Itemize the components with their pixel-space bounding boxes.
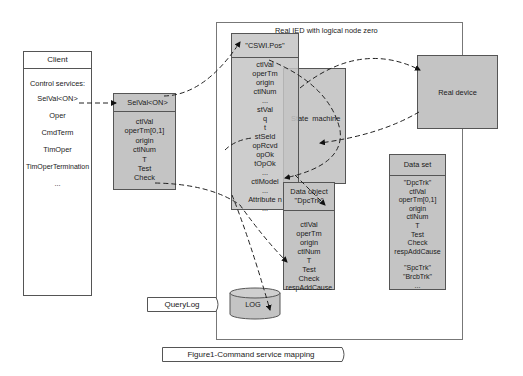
- attr-ctlval: ctlVal: [114, 117, 175, 126]
- attr-t: t: [232, 123, 298, 132]
- member-opertm: operTm[0,1]: [390, 196, 445, 205]
- attr-oprcvd: opRcvd: [232, 141, 298, 150]
- member-spacer: [390, 256, 445, 264]
- attr-ellipsis: ...: [232, 168, 298, 177]
- data-object-attributes: ctlVal operTm origin ctlNum T Test Check…: [284, 220, 334, 292]
- attr-ctlval: ctlVal: [232, 60, 298, 69]
- real-device-label: Real device: [418, 56, 497, 130]
- attr-test: Test: [114, 164, 175, 173]
- data-set-box: Data set "DpcTrk" ctlVal operTm[0,1] ori…: [389, 154, 446, 290]
- attr-ellipsis: ...: [232, 96, 298, 105]
- member-brcbtrk: "BrcbTrk": [390, 273, 445, 282]
- data-set-members: "DpcTrk" ctlVal operTm[0,1] origin ctlNu…: [390, 179, 445, 290]
- member-spctrk: "SpcTrk": [390, 264, 445, 273]
- member-respaddcause: respAddCause: [390, 248, 445, 257]
- client-box: Client Control services: SelVal<ON> Oper…: [23, 51, 92, 296]
- selval-box: SelVal<ON> ctlVal operTm[0,1] origin ctl…: [113, 93, 176, 190]
- service-oper: Oper: [24, 107, 91, 124]
- data-object-title: Data object "DpcTrk": [284, 183, 334, 211]
- attr-t: T: [284, 256, 334, 265]
- attr-check: Check: [114, 173, 175, 182]
- querylog-label-box: QueryLog: [147, 297, 221, 312]
- service-timopertermination: TimOperTermination: [24, 158, 91, 175]
- attr-stseld: stSeld: [232, 132, 298, 141]
- attr-opertm: operTm: [284, 229, 334, 238]
- querylog-label: QueryLog: [147, 297, 217, 312]
- client-title: Client: [24, 52, 91, 69]
- attr-origin: origin: [114, 136, 175, 145]
- attr-topok: tOpOk: [232, 159, 298, 168]
- selval-title: SelVal<ON>: [114, 94, 175, 112]
- attr-q: q: [232, 114, 298, 123]
- service-timoper: TimOper: [24, 141, 91, 158]
- member-origin: origin: [390, 205, 445, 214]
- service-more: ...: [24, 175, 91, 192]
- attr-ctlnum: ctlNum: [232, 87, 298, 96]
- log-label: LOG: [229, 300, 277, 309]
- attr-opertm: operTm[0,1]: [114, 126, 175, 135]
- attr-opertm: operTm: [232, 69, 298, 78]
- log-cylinder: LOG: [229, 287, 281, 321]
- member-check: Check: [390, 239, 445, 248]
- real-device-box: Real device: [417, 55, 498, 129]
- attr-ctlnum: ctlNum: [284, 247, 334, 256]
- attr-stval: stVal: [232, 105, 298, 114]
- attr-opok: opOk: [232, 150, 298, 159]
- member-ctlval: ctlVal: [390, 188, 445, 197]
- data-object-title-line2: "DpcTrk": [284, 196, 334, 205]
- attr-origin: origin: [232, 78, 298, 87]
- attr-ctlnum: ctlNum: [114, 145, 175, 154]
- client-services-list: SelVal<ON> Oper CmdTerm TimOper TimOperT…: [24, 90, 91, 192]
- member-test: Test: [390, 231, 445, 240]
- attr-check: Check: [284, 274, 334, 283]
- figure-caption: Figure1-Command service mapping: [162, 347, 340, 362]
- selval-attributes: ctlVal operTm[0,1] origin ctlNum T Test …: [114, 117, 175, 183]
- figure-caption-box: Figure1-Command service mapping: [162, 347, 346, 362]
- attr-ctlval: ctlVal: [284, 220, 334, 229]
- cswi-title: "CSWI.Pos": [232, 34, 298, 58]
- data-object-box: Data object "DpcTrk" ctlVal operTm origi…: [283, 182, 335, 290]
- control-services-label: Control services:: [24, 79, 91, 88]
- attr-origin: origin: [284, 238, 334, 247]
- service-selval: SelVal<ON>: [24, 90, 91, 107]
- attr-test: Test: [284, 265, 334, 274]
- member-more: ...: [390, 282, 445, 291]
- member-ctlnum: ctlNum: [390, 213, 445, 222]
- member-t: T: [390, 222, 445, 231]
- data-object-title-line1: Data object: [284, 187, 334, 196]
- attr-t: T: [114, 155, 175, 164]
- data-set-title: Data set: [390, 155, 445, 176]
- service-cmdterm: CmdTerm: [24, 124, 91, 141]
- attr-respaddcause: respAddCause: [284, 283, 334, 292]
- member-dpctrk: "DpcTrk": [390, 179, 445, 188]
